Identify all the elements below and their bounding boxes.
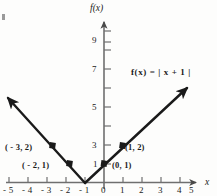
point-label-1-2: (1, 2) [125, 143, 145, 152]
point-marker-0-1 [101, 160, 108, 167]
x-tick-label-neg5: - 5 [3, 186, 14, 195]
x-tick-label-4: 4 [177, 186, 182, 195]
y-axis-ticks [104, 31, 111, 164]
x-axis-label: x [205, 178, 209, 188]
x-tick-label-neg3: - 3 [41, 186, 52, 195]
x-tick-label-3: 3 [158, 186, 163, 195]
point-marker-neg2-1 [66, 160, 73, 167]
x-tick-label-neg4: - 4 [22, 186, 33, 195]
x-tick-label-2: 2 [139, 186, 144, 195]
point-label-0-1: (0, 1) [112, 161, 132, 170]
absolute-value-function-graph: f(x) x 9 7 5 3 1 - 5 - 4 - 3 - 2 - 1 0 1… [0, 0, 217, 196]
x-axis [6, 177, 196, 183]
point-label-neg3-2: ( - 3, 2) [5, 143, 32, 152]
x-axis-ticks [9, 177, 180, 183]
point-marker-neg3-2 [49, 142, 56, 149]
y-tick-label-7: 7 [92, 65, 97, 74]
x-tick-label-1: 1 [120, 186, 125, 195]
y-tick-label-5: 5 [92, 103, 97, 112]
y-tick-label-9: 9 [92, 36, 97, 45]
y-axis-label: f(x) [90, 4, 103, 14]
x-tick-label-neg2: - 2 [60, 186, 71, 195]
x-tick-label-0: 0 [101, 186, 106, 195]
y-tick-label-3: 3 [92, 141, 97, 150]
point-label-neg2-1: ( - 2, 1) [22, 161, 49, 170]
equation-annotation: f(x) = | x + 1 | [131, 68, 191, 77]
x-tick-label-neg1: - 1 [79, 186, 90, 195]
x-tick-label-5: 5 [189, 186, 194, 195]
y-tick-label-1: 1 [93, 160, 98, 169]
